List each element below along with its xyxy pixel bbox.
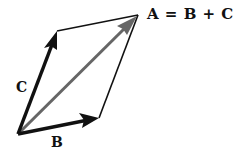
vector-a-shaft: [20, 25, 128, 132]
vector-b-label: B: [51, 134, 63, 150]
parallelogram-right-edge: [99, 15, 138, 118]
parallelogram-figure: [0, 0, 242, 164]
equation-label: A = B + C: [147, 5, 234, 23]
vector-diagram: A = B + C C B: [0, 0, 242, 164]
vector-c-label: C: [16, 79, 27, 95]
